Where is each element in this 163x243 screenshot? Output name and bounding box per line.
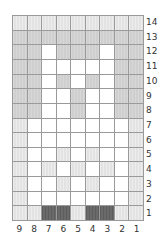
chart-cell bbox=[100, 16, 115, 31]
chart-cell bbox=[71, 60, 86, 75]
chart-cell bbox=[28, 206, 43, 221]
chart-cell bbox=[129, 119, 144, 134]
chart-cell bbox=[13, 89, 28, 104]
chart-cell bbox=[71, 206, 86, 221]
chart-cell bbox=[42, 162, 57, 177]
chart-cell bbox=[100, 192, 115, 207]
chart-cell bbox=[71, 192, 86, 207]
chart-cell bbox=[42, 206, 57, 221]
chart-cell bbox=[57, 177, 72, 192]
row-label: 12 bbox=[146, 44, 163, 59]
chart-cell bbox=[13, 192, 28, 207]
chart-cell bbox=[57, 148, 72, 163]
chart-cell bbox=[86, 206, 101, 221]
chart-cell bbox=[57, 16, 72, 31]
chart-cell bbox=[71, 162, 86, 177]
chart-cell bbox=[13, 177, 28, 192]
row-label: 13 bbox=[146, 30, 163, 45]
chart-cell bbox=[100, 177, 115, 192]
column-label: 3 bbox=[100, 224, 115, 238]
chart-cell bbox=[115, 31, 130, 46]
chart-cell bbox=[57, 133, 72, 148]
chart-cell bbox=[129, 177, 144, 192]
chart-cell bbox=[13, 16, 28, 31]
chart-cell bbox=[129, 104, 144, 119]
column-number-labels: 987654321 bbox=[12, 224, 144, 238]
chart-cell bbox=[13, 206, 28, 221]
row-label: 4 bbox=[146, 162, 163, 177]
chart-cell bbox=[86, 133, 101, 148]
chart-cell bbox=[129, 162, 144, 177]
chart-cell bbox=[71, 75, 86, 90]
chart-cell bbox=[86, 45, 101, 60]
chart-cell bbox=[71, 148, 86, 163]
chart-cell bbox=[115, 206, 130, 221]
chart-cell bbox=[115, 133, 130, 148]
chart-cell bbox=[13, 119, 28, 134]
chart-cell bbox=[28, 133, 43, 148]
column-label: 7 bbox=[41, 224, 56, 238]
chart-cell bbox=[42, 75, 57, 90]
chart-cell bbox=[86, 16, 101, 31]
chart-cell bbox=[57, 45, 72, 60]
chart-cell bbox=[115, 177, 130, 192]
chart-cell bbox=[28, 31, 43, 46]
chart-cell bbox=[100, 133, 115, 148]
chart-cell bbox=[42, 31, 57, 46]
chart-cell bbox=[57, 75, 72, 90]
chart-cell bbox=[86, 104, 101, 119]
row-label: 9 bbox=[146, 89, 163, 104]
chart-cell bbox=[115, 75, 130, 90]
chart-cell bbox=[100, 60, 115, 75]
row-label: 7 bbox=[146, 118, 163, 133]
chart-cell bbox=[42, 45, 57, 60]
chart-cell bbox=[13, 104, 28, 119]
chart-cell bbox=[13, 162, 28, 177]
chart-cell bbox=[129, 16, 144, 31]
chart-cell bbox=[28, 192, 43, 207]
chart-cell bbox=[42, 133, 57, 148]
chart-cell bbox=[86, 31, 101, 46]
chart-cell bbox=[13, 133, 28, 148]
chart-cell bbox=[28, 148, 43, 163]
chart-cell bbox=[100, 148, 115, 163]
chart-cell bbox=[86, 60, 101, 75]
chart-cell bbox=[42, 16, 57, 31]
chart-cell bbox=[129, 75, 144, 90]
column-label: 6 bbox=[56, 224, 71, 238]
chart-cell bbox=[28, 89, 43, 104]
chart-cell bbox=[28, 104, 43, 119]
chart-cell bbox=[129, 45, 144, 60]
chart-cell bbox=[100, 162, 115, 177]
chart-cell bbox=[100, 45, 115, 60]
chart-cell bbox=[129, 60, 144, 75]
chart-cell bbox=[100, 119, 115, 134]
chart-cell bbox=[28, 75, 43, 90]
chart-cell bbox=[115, 119, 130, 134]
chart-cell bbox=[86, 162, 101, 177]
chart-cell bbox=[13, 60, 28, 75]
chart-cell bbox=[100, 89, 115, 104]
chart-cell bbox=[71, 45, 86, 60]
chart-cell bbox=[28, 119, 43, 134]
chart-cell bbox=[57, 60, 72, 75]
chart-cell bbox=[115, 104, 130, 119]
row-label: 5 bbox=[146, 147, 163, 162]
column-label: 1 bbox=[129, 224, 144, 238]
chart-cell bbox=[57, 192, 72, 207]
chart-cell bbox=[115, 45, 130, 60]
row-label: 1 bbox=[146, 206, 163, 221]
chart-cell bbox=[71, 133, 86, 148]
chart-cell bbox=[86, 177, 101, 192]
chart-cell bbox=[42, 177, 57, 192]
chart-cell bbox=[42, 119, 57, 134]
row-label: 11 bbox=[146, 59, 163, 74]
row-label: 8 bbox=[146, 103, 163, 118]
chart-cell bbox=[42, 148, 57, 163]
chart-cell bbox=[115, 192, 130, 207]
chart-cell bbox=[115, 16, 130, 31]
chart-cell bbox=[86, 89, 101, 104]
chart-cell bbox=[42, 89, 57, 104]
chart-cell bbox=[129, 89, 144, 104]
chart-cell bbox=[28, 16, 43, 31]
